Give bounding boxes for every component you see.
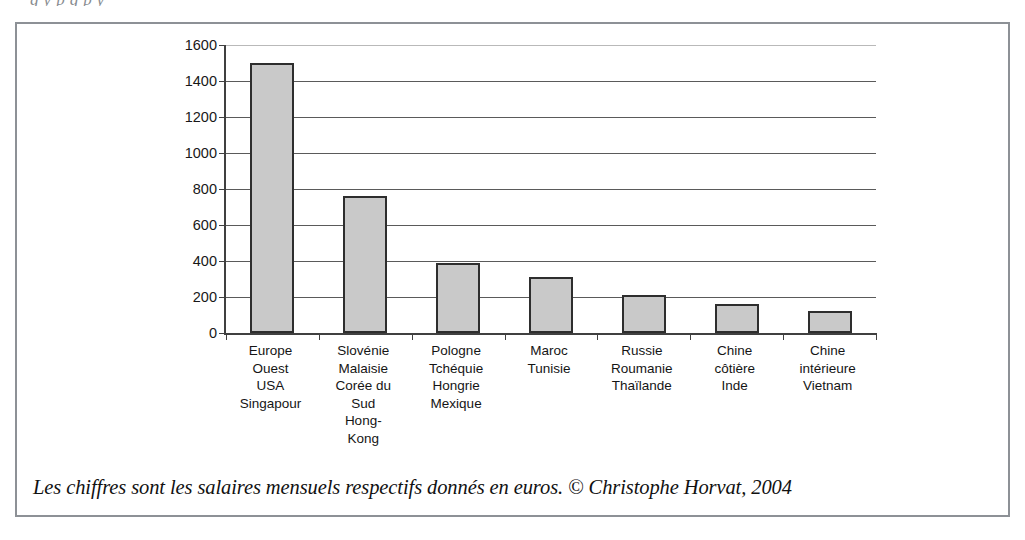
y-axis-tick-label: 400	[193, 253, 217, 269]
y-axis-tick-label: 1600	[185, 37, 217, 53]
y-axis-tick-label: 600	[193, 217, 217, 233]
bar	[715, 304, 759, 333]
x-axis-tick-mark	[412, 333, 413, 340]
cropped-header-text: g y p g p y	[30, 0, 990, 6]
bar-chart: 02004006008001000120014001600 EuropeOues…	[17, 24, 1008, 454]
y-axis-tick-mark	[219, 225, 226, 226]
bar	[343, 196, 387, 333]
x-axis-category-label-line: Chine	[773, 342, 882, 360]
x-axis-tick-mark	[226, 333, 227, 340]
x-axis-category-label-line: Mexique	[402, 395, 511, 413]
y-axis-tick-mark	[219, 153, 226, 154]
y-axis-tick-mark	[219, 45, 226, 46]
bar	[622, 295, 666, 333]
bars-group	[226, 45, 876, 333]
y-axis-tick-label: 0	[209, 325, 217, 341]
x-axis-category-label-line: Kong	[309, 430, 418, 448]
bar	[808, 311, 852, 333]
bar	[436, 263, 480, 333]
x-axis-category-labels: EuropeOuestUSASingapourSlovénieMalaisieC…	[224, 342, 874, 457]
bar	[529, 277, 573, 333]
x-axis-tick-mark	[876, 333, 877, 340]
x-axis-category-label-line: Hongrie	[402, 377, 511, 395]
x-axis-category-label-line: Hong-	[309, 412, 418, 430]
y-axis-tick-mark	[219, 189, 226, 190]
y-axis-tick-label: 1000	[185, 145, 217, 161]
bar	[250, 63, 294, 333]
x-axis-tick-mark	[597, 333, 598, 340]
x-axis-tick-mark	[690, 333, 691, 340]
y-axis-tick-label: 1200	[185, 109, 217, 125]
figure-caption: Les chiffres sont les salaires mensuels …	[33, 476, 993, 499]
y-axis-tick-mark	[219, 333, 226, 334]
y-axis-tick-mark	[219, 81, 226, 82]
y-axis-tick-label: 200	[193, 289, 217, 305]
y-axis-tick-mark	[219, 117, 226, 118]
x-axis-tick-mark	[505, 333, 506, 340]
y-axis-tick-label: 1400	[185, 73, 217, 89]
x-axis-category-label-line: intérieure	[773, 360, 882, 378]
figure-frame: 02004006008001000120014001600 EuropeOues…	[15, 22, 1010, 517]
x-axis-tick-mark	[319, 333, 320, 340]
y-axis-tick-mark	[219, 261, 226, 262]
x-axis-tick-mark	[783, 333, 784, 340]
y-axis-tick-label: 800	[193, 181, 217, 197]
plot-area: 02004006008001000120014001600	[224, 45, 876, 335]
y-axis-tick-mark	[219, 297, 226, 298]
x-axis-category-label-line: Vietnam	[773, 377, 882, 395]
x-axis-category-label: ChineintérieureVietnam	[773, 342, 882, 395]
